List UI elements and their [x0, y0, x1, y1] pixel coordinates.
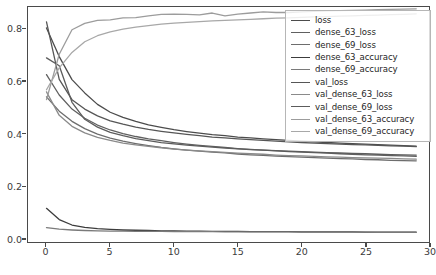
- y-tick-label: 0.6: [7, 76, 22, 87]
- x-tick-label: 5: [107, 246, 113, 257]
- x-tick-label: 15: [232, 246, 244, 257]
- legend-label: dense_63_accuracy: [315, 53, 398, 62]
- y-tick-label: 0.2: [7, 181, 22, 192]
- legend-color-swatch: [291, 119, 310, 120]
- chart-figure: 0.00.20.40.60.8 lossdense_63_lossdense_6…: [0, 0, 436, 275]
- legend-item: val_dense_69_loss: [289, 101, 426, 113]
- legend-label: val_dense_63_loss: [315, 90, 392, 99]
- series-line: [46, 208, 416, 232]
- legend-item: val_dense_63_accuracy: [289, 113, 426, 125]
- x-tick-mark: [365, 243, 366, 247]
- legend-label: dense_69_loss: [315, 41, 376, 50]
- legend-label: val_loss: [315, 78, 348, 87]
- legend-item: loss: [289, 14, 426, 26]
- legend-label: val_dense_63_accuracy: [315, 115, 414, 124]
- legend-color-swatch: [291, 69, 310, 70]
- legend-label: val_dense_69_accuracy: [315, 127, 414, 136]
- legend-color-swatch: [291, 20, 310, 21]
- legend-item: val_loss: [289, 76, 426, 88]
- y-tick-mark: [22, 238, 26, 239]
- y-tick-mark: [22, 133, 26, 134]
- legend-item: dense_63_accuracy: [289, 51, 426, 63]
- x-tick-mark: [173, 243, 174, 247]
- x-tick-label: 30: [424, 246, 436, 257]
- x-tick-mark: [301, 243, 302, 247]
- legend-item: dense_63_loss: [289, 26, 426, 38]
- legend-color-swatch: [291, 57, 310, 58]
- x-tick-label: 10: [168, 246, 180, 257]
- y-tick-mark: [22, 80, 26, 81]
- legend-item: val_dense_63_loss: [289, 88, 426, 100]
- x-tick-mark: [237, 243, 238, 247]
- legend-color-swatch: [291, 82, 310, 83]
- legend-label: dense_69_accuracy: [315, 65, 398, 74]
- legend-color-swatch: [291, 44, 310, 45]
- legend-label: val_dense_69_loss: [315, 103, 392, 112]
- chart-legend: lossdense_63_lossdense_69_lossdense_63_a…: [285, 10, 431, 142]
- x-tick-mark: [109, 243, 110, 247]
- legend-color-swatch: [291, 131, 310, 132]
- legend-color-swatch: [291, 106, 310, 107]
- x-tick-label: 20: [296, 246, 308, 257]
- x-tick-label: 25: [360, 246, 372, 257]
- legend-color-swatch: [291, 94, 310, 95]
- y-tick-mark: [22, 186, 26, 187]
- legend-label: loss: [315, 16, 331, 25]
- legend-item: val_dense_69_accuracy: [289, 126, 426, 138]
- x-tick-mark: [429, 243, 430, 247]
- legend-label: dense_63_loss: [315, 28, 376, 37]
- x-tick-label: 0: [43, 246, 49, 257]
- y-tick-mark: [22, 28, 26, 29]
- y-axis-tick-labels: 0.00.20.40.60.8: [0, 0, 22, 275]
- y-tick-label: 0.8: [7, 23, 22, 34]
- legend-item: dense_69_accuracy: [289, 64, 426, 76]
- legend-item: dense_69_loss: [289, 39, 426, 51]
- y-tick-label: 0.4: [7, 128, 22, 139]
- x-tick-mark: [45, 243, 46, 247]
- y-tick-label: 0.0: [7, 234, 22, 245]
- legend-color-swatch: [291, 32, 310, 33]
